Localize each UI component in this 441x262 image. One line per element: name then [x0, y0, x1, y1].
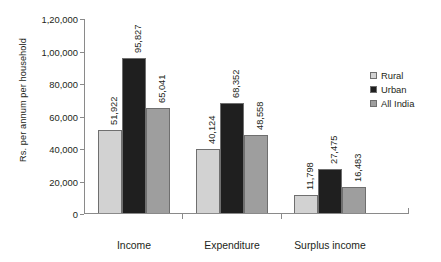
bar-group: 40,12468,35248,558	[196, 19, 268, 214]
x-axis-separator	[182, 214, 183, 219]
bar: 65,041	[146, 108, 170, 214]
legend-item: All India	[370, 97, 414, 110]
x-category-label: Surplus income	[294, 240, 366, 251]
y-tick-mark	[80, 52, 84, 53]
x-axis-line	[84, 213, 408, 214]
y-axis-line	[84, 19, 85, 214]
y-axis-tick-labels: 020,00040,00060,00080,0001,00,0001,20,00…	[20, 0, 78, 262]
x-axis-end-cap	[408, 208, 409, 214]
y-tick-mark	[80, 149, 84, 150]
legend-item: Urban	[370, 83, 414, 96]
y-tick-label: 40,000	[20, 144, 78, 155]
bar-value-label: 48,558	[255, 102, 265, 130]
y-tick-label: 1,20,000	[20, 14, 78, 25]
legend-label: All India	[381, 98, 414, 109]
legend-swatch	[370, 100, 377, 107]
bar-value-label: 16,483	[353, 154, 363, 182]
bar: 40,124	[196, 149, 220, 214]
bar: 48,558	[244, 135, 268, 214]
y-tick-label: 1,00,000	[20, 46, 78, 57]
y-tick-mark	[80, 19, 84, 20]
x-category-label: Expenditure	[204, 240, 259, 251]
bar-value-label: 40,124	[207, 115, 217, 143]
y-tick-mark	[80, 84, 84, 85]
bar-value-label: 95,827	[133, 25, 143, 53]
bar: 16,483	[342, 187, 366, 214]
bar-value-label: 51,922	[109, 96, 119, 124]
x-axis-separator	[281, 214, 282, 219]
bar: 68,352	[220, 103, 244, 214]
y-tick-mark	[80, 182, 84, 183]
legend-swatch	[370, 72, 377, 79]
bar: 51,922	[98, 130, 122, 214]
x-axis-end-cap	[84, 208, 85, 214]
bar-value-label: 68,352	[231, 70, 241, 98]
legend-label: Urban	[381, 84, 407, 95]
bar-value-label: 11,798	[305, 162, 315, 190]
legend-swatch	[370, 86, 377, 93]
bar: 11,798	[294, 195, 318, 214]
y-tick-label: 60,000	[20, 111, 78, 122]
y-tick-mark	[80, 214, 84, 215]
y-tick-label: 80,000	[20, 79, 78, 90]
x-category-label: Income	[117, 240, 151, 251]
bar-value-label: 65,041	[157, 75, 167, 103]
y-tick-mark	[80, 117, 84, 118]
bar: 27,475	[318, 169, 342, 214]
bar: 95,827	[122, 58, 146, 214]
bar-value-label: 27,475	[329, 136, 339, 164]
legend-item: Rural	[370, 69, 414, 82]
legend: RuralUrbanAll India	[370, 69, 414, 111]
bar-group: 11,79827,47516,483	[294, 19, 366, 214]
bar-chart: Rs. per annum per household 020,00040,00…	[0, 0, 441, 262]
y-tick-label: 0	[20, 209, 78, 220]
y-tick-label: 20,000	[20, 176, 78, 187]
plot-area: 51,92295,82765,04140,12468,35248,55811,7…	[84, 19, 316, 214]
legend-label: Rural	[381, 70, 403, 81]
bar-group: 51,92295,82765,041	[98, 19, 170, 214]
